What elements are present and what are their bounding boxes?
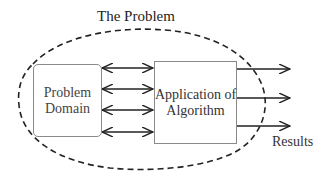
results-label: Results — [272, 134, 313, 149]
problem-domain-line2: Domain — [44, 101, 91, 116]
algorithm-line2: Algorithm — [155, 103, 236, 118]
algorithm-box: Application of Algorithm — [154, 61, 237, 144]
diagram: The Problem Problem Domain Application o… — [0, 0, 322, 178]
problem-title: The Problem — [97, 8, 175, 25]
problem-domain-box: Problem Domain — [33, 64, 102, 137]
problem-domain-label: Problem Domain — [44, 85, 91, 116]
algorithm-line1: Application of — [155, 87, 236, 102]
problem-domain-line1: Problem — [44, 85, 91, 100]
algorithm-label: Application of Algorithm — [155, 87, 236, 118]
